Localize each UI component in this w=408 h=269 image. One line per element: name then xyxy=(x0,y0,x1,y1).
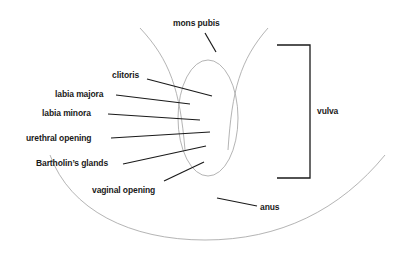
label-vulva: vulva xyxy=(317,107,338,116)
leader-bartholins-glands xyxy=(123,146,206,164)
label-bartholins-glands: Bartholin’s glands xyxy=(36,159,108,168)
label-clitoris: clitoris xyxy=(112,71,139,80)
leader-mons-pubis xyxy=(205,33,216,52)
leader-labia-minora xyxy=(108,114,200,120)
leader-vaginal-opening xyxy=(164,162,204,181)
anatomy-diagram: mons pubis clitoris labia majora labia m… xyxy=(0,0,408,269)
label-labia-majora: labia majora xyxy=(55,90,103,99)
vulva-bracket xyxy=(277,45,310,178)
leader-labia-majora xyxy=(116,95,190,104)
illustration-outline xyxy=(50,28,385,240)
leader-anus xyxy=(217,198,257,206)
leader-urethral-opening xyxy=(111,132,210,138)
label-vaginal-opening: vaginal opening xyxy=(92,186,155,195)
label-mons-pubis: mons pubis xyxy=(173,19,220,28)
label-anus: anus xyxy=(260,203,279,212)
label-labia-minora: labia minora xyxy=(42,109,91,118)
leader-lines xyxy=(108,33,257,206)
leader-clitoris xyxy=(147,79,212,96)
label-urethral-opening: urethral opening xyxy=(26,134,91,143)
